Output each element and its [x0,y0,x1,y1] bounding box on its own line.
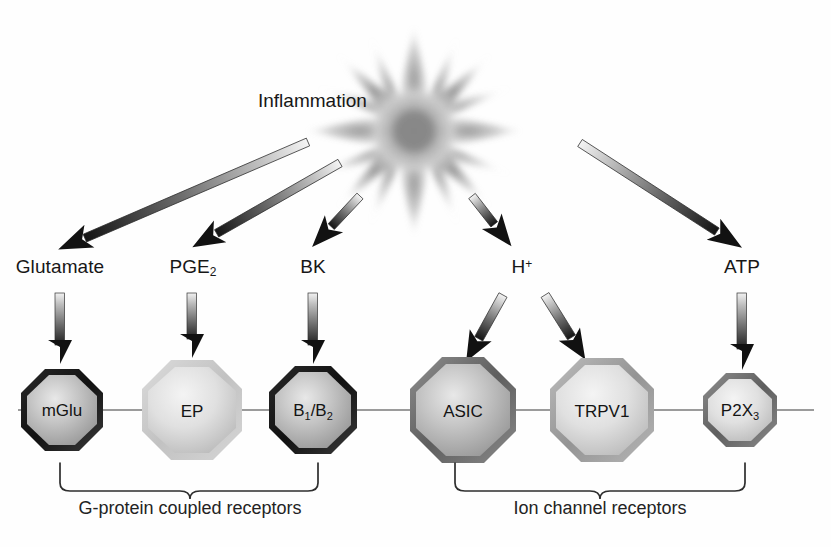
receptor-trpv1[interactable]: TRPV1 [550,358,654,462]
mediator-label-hplus: H+ [492,256,552,278]
brace-ion [455,463,745,499]
arrow-pge2-ep [180,293,204,358]
arrow-atp-p2x3 [730,293,754,370]
receptor-ep[interactable]: EP [142,360,242,460]
receptor-b1b2[interactable]: B1/B2 [269,366,357,454]
mediator-label-pge2: PGE2 [155,256,231,279]
mediator-label-atp: ATP [712,256,772,278]
arrow-to-atp [573,133,749,259]
arrows-and-receptors-layer: mGlu EP B1/B2 ASIC [0,0,831,547]
brace-gpcr [60,463,318,499]
mediator-text: H [512,256,526,277]
mediator-subscript: 2 [210,265,217,279]
brace-group [60,463,745,499]
receptor-label-asic: ASIC [443,402,483,421]
arrow-to-hplus [462,188,521,254]
arrow-to-bk [303,187,369,255]
receptor-label-ep: EP [181,402,204,421]
receptor-p2x3[interactable]: P2X3 [703,373,777,447]
arrow-hplus-trpv1 [534,288,595,366]
receptor-mglu[interactable]: mGlu [21,369,103,451]
group-caption-gpcr: G-protein coupled receptors [70,498,310,519]
receptor-asic[interactable]: ASIC [410,357,516,463]
arrow-bk-b1b2 [301,293,325,364]
mediator-label-glutamate: Glutamate [12,256,108,278]
inflammation-arrow-group [53,131,749,262]
mediator-label-bk: BK [283,256,343,278]
mediator-text: PGE [169,256,209,277]
page-title: Inflammation [258,90,367,112]
receptor-label-trpv1: TRPV1 [575,402,630,421]
mediator-superscript: + [525,257,532,271]
diagram-canvas: mGlu EP B1/B2 ASIC [0,0,831,547]
group-caption-ion: Ion channel receptors [490,498,710,519]
receptor-label-mglu: mGlu [42,401,83,420]
arrow-glutamate-mglu [48,293,72,364]
arrow-hplus-asic [455,289,514,368]
receptor-arrow-group [48,288,754,370]
